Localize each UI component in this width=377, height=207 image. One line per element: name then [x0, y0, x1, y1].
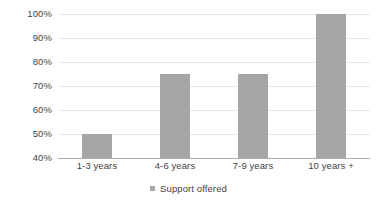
bar[interactable]	[160, 74, 190, 158]
bar-chart: 100% 90% 80% 70% 60% 50% 40%	[0, 0, 377, 207]
y-axis-tick-labels: 100% 90% 80% 70% 60% 50% 40%	[0, 14, 52, 158]
y-axis-tick-label: 70%	[33, 81, 52, 91]
x-axis-tick-label: 1-3 years	[58, 161, 136, 171]
bar-slot	[214, 14, 292, 158]
legend: Support offered	[0, 184, 377, 194]
y-axis-tick-label: 50%	[33, 129, 52, 139]
y-axis-tick-label: 60%	[33, 105, 52, 115]
bar-slot	[136, 14, 214, 158]
x-axis-tick-labels: 1-3 years 4-6 years 7-9 years 10 years +	[58, 161, 370, 171]
legend-item-label[interactable]: Support offered	[160, 184, 227, 194]
bar[interactable]	[238, 74, 268, 158]
bar[interactable]	[82, 134, 112, 158]
bar-slot	[58, 14, 136, 158]
bar-slot	[292, 14, 370, 158]
y-axis-tick-label: 40%	[33, 153, 52, 163]
legend-swatch-icon	[150, 186, 155, 191]
x-axis-tick-label: 7-9 years	[214, 161, 292, 171]
bar[interactable]	[316, 14, 346, 158]
bar-group	[58, 14, 370, 158]
y-axis-tick-label: 90%	[33, 33, 52, 43]
x-axis-line	[58, 158, 370, 159]
y-axis-tick-label: 100%	[27, 9, 52, 19]
x-axis-tick-label: 4-6 years	[136, 161, 214, 171]
x-axis-tick-label: 10 years +	[292, 161, 370, 171]
plot-area	[58, 14, 370, 158]
y-axis-tick-label: 80%	[33, 57, 52, 67]
